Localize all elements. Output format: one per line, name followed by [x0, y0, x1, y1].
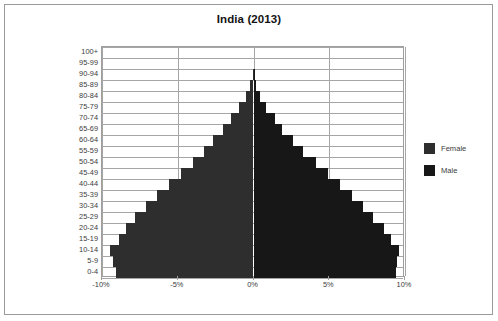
pyramid-row: [102, 157, 403, 168]
legend-swatch-male: [424, 165, 435, 176]
bar-female: [169, 179, 254, 190]
bar-male: [254, 179, 340, 190]
legend-item-male[interactable]: Male: [420, 164, 482, 177]
y-axis-tick-60-64: 60-64: [56, 136, 98, 144]
bar-female: [116, 267, 254, 278]
x-axis-tick-mark: [253, 276, 254, 280]
y-axis-tick-70-74: 70-74: [56, 114, 98, 122]
bar-female: [126, 223, 253, 234]
bar-female: [239, 102, 253, 113]
bar-female: [135, 212, 253, 223]
legend-label-male: Male: [441, 166, 457, 175]
bar-male: [254, 135, 293, 146]
bar-female: [146, 201, 254, 212]
bar-female: [246, 91, 254, 102]
bar-female: [110, 245, 254, 256]
y-axis-tick-50-54: 50-54: [56, 158, 98, 166]
bar-female: [113, 256, 254, 267]
bar-female: [193, 157, 254, 168]
pyramid-row: [102, 146, 403, 157]
y-axis-tick-35-39: 35-39: [56, 191, 98, 199]
bar-female: [119, 234, 254, 245]
x-axis-tick-labels: -10%-5%0%5%10%: [101, 280, 404, 294]
x-axis-tick-mark: [328, 276, 329, 280]
pyramid-row: [102, 91, 403, 102]
bar-male: [254, 201, 363, 212]
y-axis-tick-30-34: 30-34: [56, 202, 98, 210]
population-pyramid-figure: India (2013) 0-45-910-1415-1920-2425-293…: [0, 0, 498, 321]
bar-male: [254, 91, 261, 102]
pyramid-row: [102, 234, 403, 245]
y-axis-tick-55-59: 55-59: [56, 147, 98, 155]
y-axis-tick-45-49: 45-49: [56, 169, 98, 177]
bar-male: [254, 212, 374, 223]
bar-male: [254, 267, 396, 278]
bar-male: [254, 102, 267, 113]
y-axis-tick-100+: 100+: [56, 48, 98, 56]
y-axis-tick-95-99: 95-99: [56, 59, 98, 67]
pyramid-row: [102, 223, 403, 234]
y-axis-tick-20-24: 20-24: [56, 224, 98, 232]
bar-male: [254, 168, 328, 179]
bar-male: [254, 69, 255, 80]
pyramid-row: [102, 58, 403, 69]
y-axis-tick-5-9: 5-9: [56, 257, 98, 265]
bar-male: [254, 223, 384, 234]
bar-male: [254, 146, 304, 157]
x-axis-tick-5%: 5%: [308, 280, 348, 289]
pyramid-row: [102, 113, 403, 124]
pyramid-row: [102, 80, 403, 91]
pyramid-row: [102, 190, 403, 201]
x-axis-tick--10%: -10%: [81, 280, 121, 289]
y-axis-tick-10-14: 10-14: [56, 246, 98, 254]
pyramid-row: [102, 102, 403, 113]
chart-title: India (2013): [0, 13, 498, 25]
y-axis-tick-65-69: 65-69: [56, 125, 98, 133]
legend-label-female: Female: [441, 144, 466, 153]
x-axis-tick-10%: 10%: [384, 280, 424, 289]
y-axis-tick-0-4: 0-4: [56, 268, 98, 276]
pyramid-row: [102, 179, 403, 190]
vertical-gridline: [405, 47, 406, 276]
bar-male: [254, 245, 399, 256]
bar-female: [213, 135, 254, 146]
bar-male: [254, 256, 398, 267]
bar-male: [254, 157, 316, 168]
pyramid-row: [102, 168, 403, 179]
y-axis-tick-25-29: 25-29: [56, 213, 98, 221]
pyramid-row: [102, 256, 403, 267]
pyramid-row: [102, 69, 403, 80]
y-axis-tick-labels: 0-45-910-1415-1920-2425-2930-3435-3940-4…: [54, 46, 98, 277]
legend-swatch-female: [424, 143, 435, 154]
y-axis-tick-15-19: 15-19: [56, 235, 98, 243]
pyramid-row: [102, 135, 403, 146]
x-axis-tick-mark: [101, 276, 102, 280]
pyramid-row: [102, 124, 403, 135]
bar-male: [254, 190, 352, 201]
y-axis-tick-80-84: 80-84: [56, 92, 98, 100]
x-axis-tick-0%: 0%: [233, 280, 273, 289]
bar-male: [254, 234, 392, 245]
pyramid-row: [102, 212, 403, 223]
plot-area: [101, 46, 404, 277]
pyramid-row: [102, 245, 403, 256]
pyramid-row: [102, 47, 403, 58]
y-axis-tick-85-89: 85-89: [56, 81, 98, 89]
bar-female: [157, 190, 254, 201]
bar-female: [223, 124, 253, 135]
bar-male: [254, 80, 257, 91]
legend-item-female[interactable]: Female: [420, 142, 482, 155]
bar-male: [254, 124, 283, 135]
bar-male: [254, 113, 275, 124]
bar-female: [231, 113, 254, 124]
chart-legend: FemaleMale: [420, 142, 482, 186]
pyramid-row: [102, 201, 403, 212]
x-axis-tick-mark: [177, 276, 178, 280]
bar-female: [204, 146, 254, 157]
y-axis-tick-90-94: 90-94: [56, 70, 98, 78]
x-axis-tick--5%: -5%: [157, 280, 197, 289]
y-axis-tick-75-79: 75-79: [56, 103, 98, 111]
bar-female: [181, 168, 254, 179]
y-axis-tick-40-44: 40-44: [56, 180, 98, 188]
x-axis-tick-mark: [404, 276, 405, 280]
